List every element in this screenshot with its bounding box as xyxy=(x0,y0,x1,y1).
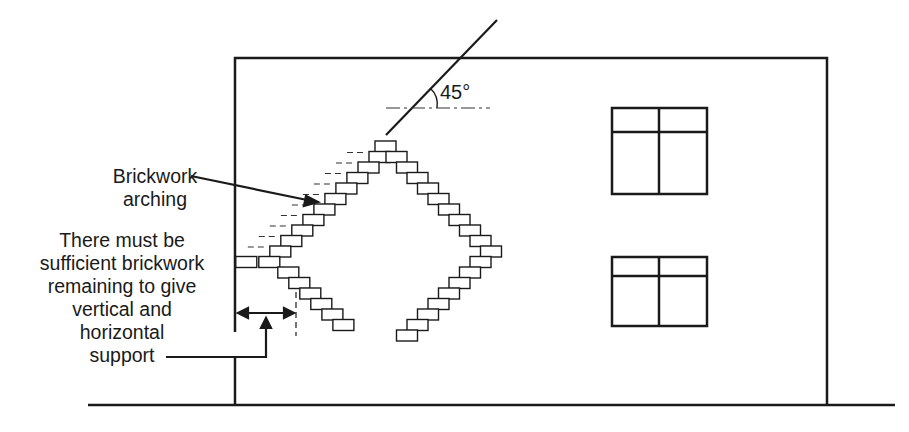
label-brickwork-arching: Brickwork arching xyxy=(100,165,210,211)
angle-label: 45° xyxy=(440,81,470,104)
label-line: horizontal xyxy=(22,321,222,344)
brick xyxy=(439,204,460,215)
brick xyxy=(470,236,491,247)
brick xyxy=(397,330,418,341)
brick xyxy=(333,320,354,331)
angle-line xyxy=(386,20,497,135)
wall-outline xyxy=(235,58,827,405)
brick xyxy=(375,141,396,152)
label-line: vertical and xyxy=(22,298,222,321)
brick xyxy=(386,152,407,163)
brick xyxy=(439,288,460,299)
brick xyxy=(322,309,343,320)
brick xyxy=(481,246,502,257)
brick xyxy=(418,309,439,320)
label-line: There must be xyxy=(22,229,222,252)
brick xyxy=(336,183,357,194)
brick xyxy=(358,162,379,173)
brick xyxy=(311,299,332,310)
angle-arc xyxy=(430,88,437,108)
label-line: Brickwork xyxy=(100,165,210,188)
brick xyxy=(428,299,449,310)
diagram-canvas xyxy=(0,0,909,432)
brick xyxy=(314,204,335,215)
brick xyxy=(460,225,481,236)
label-line: sufficient brickwork xyxy=(22,252,222,275)
brick xyxy=(347,173,368,184)
window-lower xyxy=(612,257,707,326)
window-upper xyxy=(612,108,707,194)
label-line: remaining to give xyxy=(22,275,222,298)
brickwork-arch xyxy=(236,141,502,341)
brick xyxy=(300,288,321,299)
label-line: support xyxy=(22,344,222,367)
brick xyxy=(407,320,428,331)
label-line: arching xyxy=(100,188,210,211)
brick xyxy=(325,194,346,205)
brick xyxy=(418,183,439,194)
brick xyxy=(278,267,299,278)
brick xyxy=(281,236,302,247)
brick xyxy=(449,278,470,289)
label-support-note: There must be sufficient brickwork remai… xyxy=(22,229,222,367)
brick xyxy=(292,225,313,236)
brick xyxy=(289,278,310,289)
brick xyxy=(460,267,481,278)
brick xyxy=(407,173,428,184)
brick xyxy=(259,257,280,268)
brick xyxy=(449,215,470,226)
arching-leader-arrow xyxy=(191,176,318,206)
brick xyxy=(270,246,291,257)
brick xyxy=(397,162,418,173)
brick xyxy=(428,194,449,205)
brick xyxy=(303,215,324,226)
brick xyxy=(236,257,257,268)
brick xyxy=(470,257,491,268)
